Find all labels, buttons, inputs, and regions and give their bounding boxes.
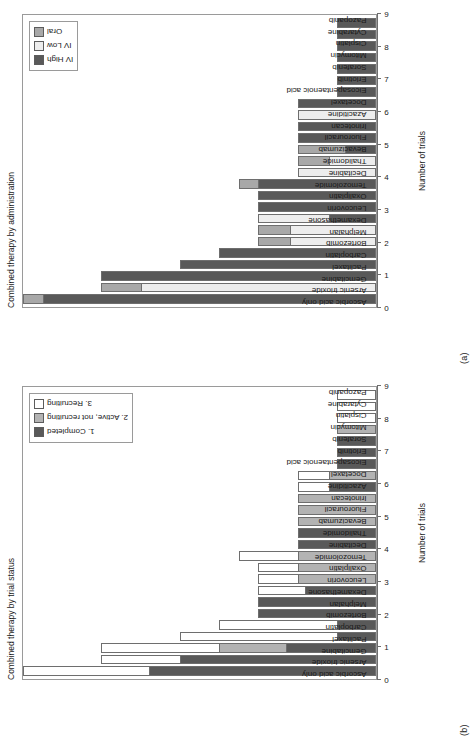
panel-a-legend: IV HighIV LowOral	[29, 21, 78, 71]
axis-tick-label: 6	[384, 480, 388, 489]
category-label: Bevacizumab	[318, 145, 366, 154]
axis-tick	[377, 646, 381, 647]
bar-column	[23, 109, 376, 121]
bar-segment	[101, 655, 179, 665]
axis-tick-label: 0	[384, 676, 388, 685]
bar-column	[23, 98, 376, 110]
legend-swatch-icon	[34, 413, 44, 423]
category-label: Bortezomib	[326, 611, 366, 620]
bar-column	[23, 201, 376, 213]
axis-tick-label: 7	[384, 75, 388, 84]
category-label: Oxaliplatin	[329, 564, 366, 573]
category-label: Pazopanib	[329, 15, 367, 24]
panel-a-x-axis: 0123456789	[377, 14, 378, 308]
panel-a: (a) Combined therapy by administration I…	[0, 0, 473, 372]
category-label: Cisplatin	[336, 411, 367, 420]
axis-tick	[377, 46, 381, 47]
category-label: Temozolomide	[315, 180, 367, 189]
bar-segment	[101, 283, 140, 293]
axis-tick	[377, 450, 381, 451]
bar-column	[23, 167, 376, 179]
bar-segment	[298, 471, 329, 481]
axis-tick-label: 6	[384, 108, 388, 117]
axis-tick	[377, 111, 381, 112]
panel-a-title: Combined therapy by administration	[6, 172, 16, 308]
category-label: Fluorouracil	[325, 133, 367, 142]
bar-segment	[101, 643, 219, 653]
panel-b-legend: 1. Completed2. Active, not recruiting3. …	[29, 393, 133, 443]
category-label: Mitomycin	[330, 51, 366, 60]
bar-segment	[180, 632, 337, 642]
bar-segment	[258, 563, 297, 573]
category-label: Cytarabine	[328, 27, 367, 36]
bar-column	[23, 596, 376, 608]
axis-tick-label: 8	[384, 414, 388, 423]
category-label: Gemcitabine	[322, 274, 367, 283]
category-label: Dexamethasone	[308, 587, 366, 596]
axis-tick-label: 7	[384, 447, 388, 456]
category-label: Azacitidine	[328, 481, 367, 490]
category-label: Carboplatin	[326, 251, 367, 260]
bar-column	[23, 259, 376, 271]
category-label: Gemcitabine	[322, 646, 367, 655]
bar-segment	[239, 179, 259, 189]
bar-column	[23, 224, 376, 236]
panel-b-axis-title: Number of trials	[417, 386, 427, 680]
category-label: Irinotecan	[331, 493, 366, 502]
category-label: Bortezomib	[326, 239, 366, 248]
bar-segment	[23, 666, 149, 676]
category-label: Oxaliplatin	[329, 192, 366, 201]
category-label: Leucovorin	[327, 204, 366, 213]
axis-tick	[377, 274, 381, 275]
axis-tick	[377, 144, 381, 145]
category-label: Thalidomide	[323, 157, 367, 166]
panel-b-title: Combined therapy by trial status	[6, 558, 16, 680]
bar-column	[23, 562, 376, 574]
panel-b: (b) Combined therapy by trial status 1. …	[0, 372, 473, 744]
axis-tick	[377, 483, 381, 484]
panel-b-letter: (b)	[459, 724, 469, 736]
legend-swatch-icon	[34, 399, 44, 409]
category-label: Arsenic trioxide	[312, 286, 367, 295]
category-label: Docetaxel	[331, 470, 367, 479]
axis-tick-label: 3	[384, 206, 388, 215]
axis-tick	[377, 176, 381, 177]
axis-tick-label: 5	[384, 512, 388, 521]
axis-tick	[377, 418, 381, 419]
bar-column	[23, 190, 376, 202]
legend-swatch-icon	[34, 41, 44, 51]
category-label: Bevacizumab	[318, 517, 366, 526]
axis-tick-label: 5	[384, 140, 388, 149]
axis-tick	[377, 548, 381, 549]
bar-column	[23, 619, 376, 631]
category-label: Cisplatin	[336, 39, 367, 48]
panel-a-axis-title: Number of trials	[417, 14, 427, 308]
axis-tick-label: 2	[384, 238, 388, 247]
category-label: Pazopanib	[329, 387, 367, 396]
bar-column	[23, 132, 376, 144]
legend-swatch-icon	[34, 427, 44, 437]
category-label: Irinotecan	[331, 121, 366, 130]
bar-column	[23, 504, 376, 516]
bar-column	[23, 75, 376, 87]
category-label: Paclitaxel	[332, 262, 366, 271]
legend-label: IV High	[47, 56, 73, 65]
legend-entry: IV Low	[34, 41, 71, 51]
axis-tick-label: 3	[384, 578, 388, 587]
axis-tick-label: 9	[384, 10, 388, 19]
category-label: Eicosapentaenoic acid	[286, 458, 366, 467]
category-label: Sorafenib	[332, 62, 366, 71]
category-label: Arsenic trioxide	[312, 658, 367, 667]
legend-entry: 1. Completed	[34, 427, 95, 437]
bar-column	[23, 236, 376, 248]
bar-column	[23, 247, 376, 259]
category-label: Temozolomide	[315, 552, 367, 561]
category-label: Ascorbic acid only	[302, 298, 366, 307]
axis-tick-label: 1	[384, 271, 388, 280]
panel-a-letter: (a)	[459, 352, 469, 364]
category-label: Eicosapentaenoic acid	[286, 86, 366, 95]
bar-segment	[258, 574, 297, 584]
category-label: Leucovorin	[327, 576, 366, 585]
legend-label: 1. Completed	[47, 428, 95, 437]
axis-tick-label: 4	[384, 545, 388, 554]
